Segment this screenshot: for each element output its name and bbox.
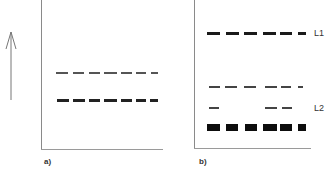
L2-middle-thin-band-dash [209,107,219,109]
L2-thick-blocks-dash [263,124,277,131]
L2-middle-thin-band-dash [265,107,277,109]
L1-band-dash [280,32,292,35]
lower-thick-band-dash [73,99,85,102]
L2-upper-thin-band-dash [265,86,277,88]
L2-thick-blocks-dash [298,124,306,131]
lower-thick-band-dash [121,99,132,102]
L1-band-dash [244,32,257,35]
panel-b-bottom-axis [194,148,311,149]
lower-thick-band-dash [136,99,146,102]
panel-b-label: b) [199,157,207,166]
up-arrow-icon [0,0,332,169]
L1-label: L1 [314,28,324,38]
L2-thick-blocks-dash [280,124,292,131]
L1-band-dash [226,32,239,35]
L2-upper-thin-band-dash [209,86,220,88]
L2-upper-thin-band-dash [298,86,303,88]
L2-label: L2 [314,103,324,113]
panel-a-left-axis [41,0,42,149]
lower-thick-band-dash [89,99,100,102]
upper-thin-band-dash [121,72,132,74]
L2-upper-thin-band-dash [281,86,291,88]
L1-band-dash [207,32,220,35]
lower-thick-band-dash [57,99,69,102]
upper-thin-band-dash [104,72,117,74]
L2-thick-blocks-dash [207,124,220,131]
panel-a-label: a) [44,157,51,166]
lower-thick-band-dash [104,99,117,102]
L2-thick-blocks-dash [226,124,238,131]
upper-thin-band-dash [56,72,68,74]
upper-thin-band-dash [136,72,146,74]
lower-thick-band-dash [150,99,158,102]
L2-upper-thin-band-dash [225,86,237,88]
L2-upper-thin-band-dash [244,86,256,88]
upper-thin-band-dash [89,72,100,74]
panel-a-bottom-axis [41,149,163,150]
upper-thin-band-dash [151,72,158,74]
L2-middle-thin-band-dash [282,107,292,109]
panel-b-left-axis [194,0,195,148]
L1-band-dash [298,32,306,35]
L1-band-dash [263,32,276,35]
L2-thick-blocks-dash [245,124,257,131]
upper-thin-band-dash [73,72,84,74]
